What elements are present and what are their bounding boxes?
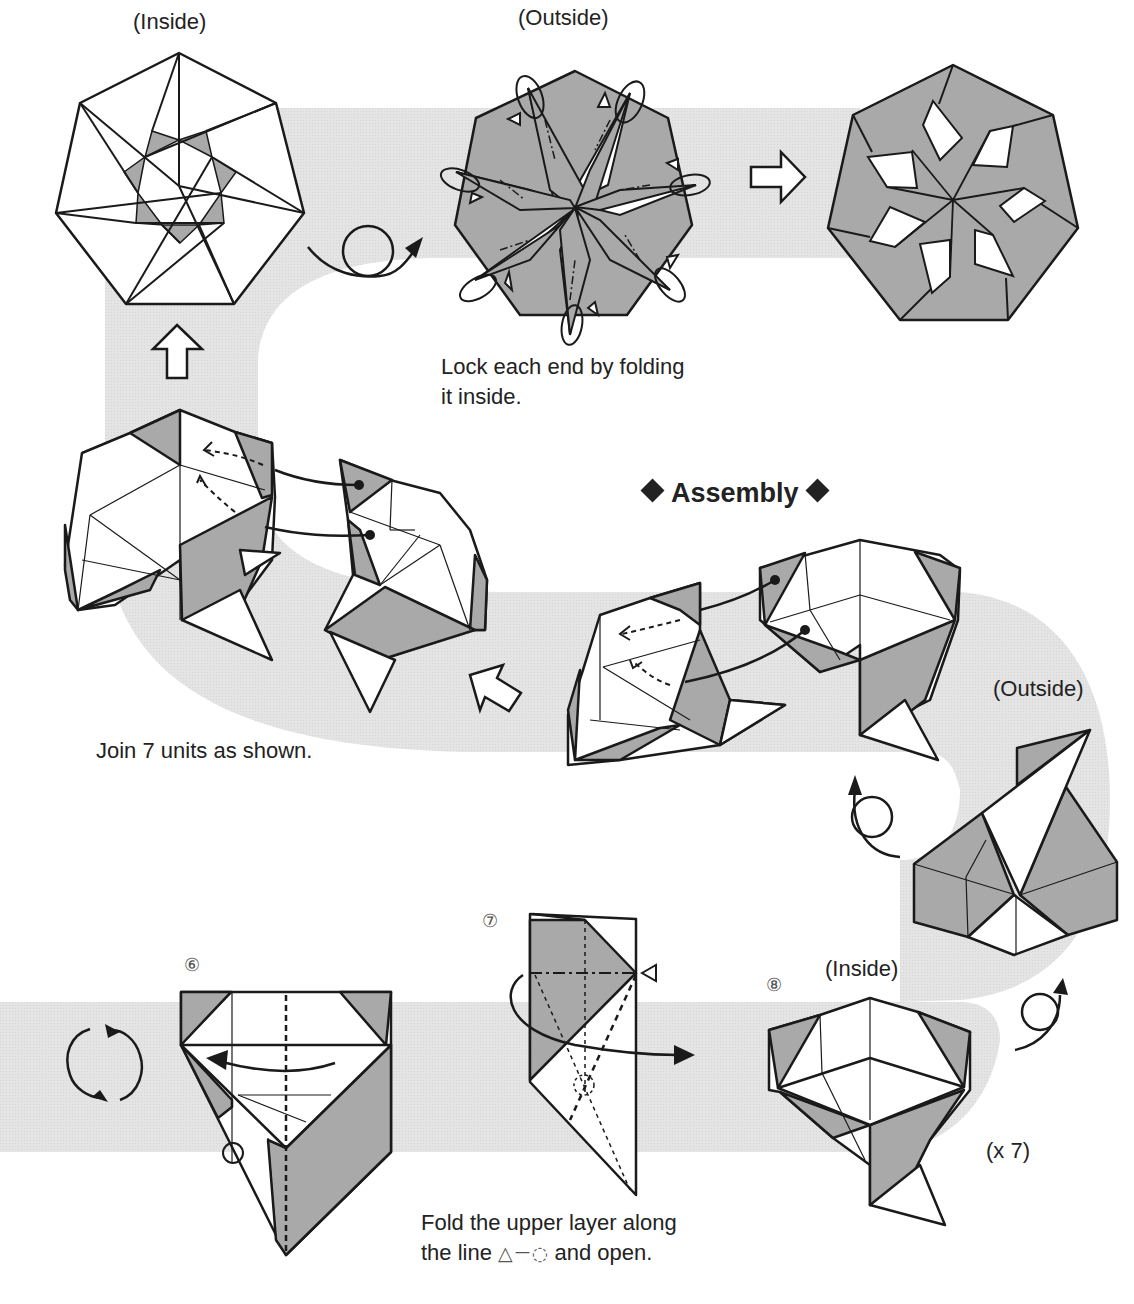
step-7-caption: Fold the upper layer along the line △－◌ …	[421, 1208, 751, 1268]
step-8-inside-label: (Inside)	[825, 956, 898, 982]
lock-caption-line2: it inside.	[441, 384, 522, 409]
path-band	[0, 0, 1134, 1304]
lock-caption: Lock each end by folding it inside.	[441, 352, 761, 412]
step-7-caption-line2b: and open.	[554, 1240, 652, 1265]
diamond-icon	[805, 478, 829, 502]
step-7-number: ⑦	[482, 910, 498, 931]
join-caption: Join 7 units as shown.	[96, 736, 312, 766]
step-6-number: ⑥	[184, 954, 200, 975]
step-7-caption-line2a: the line	[421, 1240, 492, 1265]
repeat-count: (x 7)	[986, 1138, 1030, 1164]
step-7-caption-line1: Fold the upper layer along	[421, 1210, 677, 1235]
assembly-heading: Assembly	[634, 478, 836, 509]
inside-label: (Inside)	[133, 9, 206, 35]
outside-label: (Outside)	[518, 5, 608, 31]
fold-line-symbols: △－◌	[498, 1242, 548, 1264]
diamond-icon	[640, 478, 664, 502]
assembly-outside-label: (Outside)	[993, 676, 1083, 702]
step-8-number: ⑧	[766, 974, 782, 995]
lock-caption-line1: Lock each end by folding	[441, 354, 684, 379]
assembly-heading-text: Assembly	[671, 478, 799, 508]
